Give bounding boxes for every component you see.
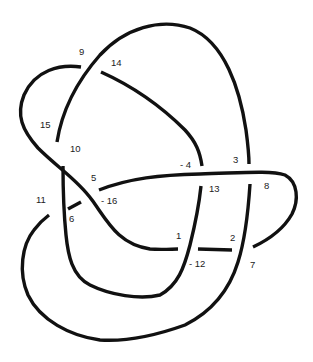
crossing-label-11: 11 (36, 195, 46, 205)
crossing-label-7: 7 (250, 260, 255, 270)
crossing-label-1: 1 (176, 231, 181, 241)
strand-outer-bottom-loop (22, 184, 250, 340)
crossing-label-14: 14 (111, 58, 122, 68)
crossing-label-3: 3 (233, 155, 238, 165)
strand-top-arc (57, 24, 249, 164)
crossing-label-13: 13 (209, 184, 220, 194)
crossing-label-minus-16: - 16 (101, 196, 117, 206)
strand-14-to-minus4 (101, 72, 202, 166)
crossing-label-5: 5 (91, 173, 96, 183)
crossing-label-minus-12: - 12 (189, 259, 205, 269)
crossing-label-8: 8 (264, 181, 269, 191)
crossing-label-6: 6 (69, 214, 74, 224)
crossing-label-9: 9 (79, 47, 84, 57)
strand-dash-1-2 (198, 249, 232, 250)
crossing-label-minus-4: - 4 (180, 160, 191, 170)
crossing-label-2: 2 (230, 233, 235, 243)
strand-left-loop (20, 66, 178, 249)
strand-dash-11-6 (68, 202, 81, 209)
crossing-label-15: 15 (40, 120, 51, 130)
crossing-label-10: 10 (70, 144, 81, 154)
